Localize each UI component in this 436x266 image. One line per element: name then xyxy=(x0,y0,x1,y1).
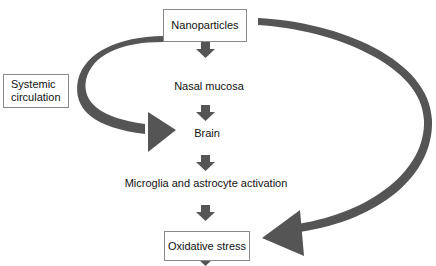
nanoparticles-box: Nanoparticles xyxy=(163,9,247,42)
curved-arrow-to-brain-icon xyxy=(77,36,176,152)
systemic-label-line1: Systemic xyxy=(11,78,56,90)
oxidative-stress-box: Oxidative stress xyxy=(164,231,250,261)
oxidative-stress-label: Oxidative stress xyxy=(168,240,246,253)
down-arrow-icon xyxy=(196,105,215,121)
curved-arrow-to-oxidative-stress-icon xyxy=(258,18,432,256)
down-arrow-icon xyxy=(196,205,215,221)
systemic-label-line2: circulation xyxy=(11,91,61,103)
diagram-canvas: Nanoparticles Systemic circulation Nasal… xyxy=(0,0,436,266)
systemic-circulation-box: Systemic circulation xyxy=(3,74,69,108)
nasal-mucosa-label: Nasal mucosa xyxy=(174,80,244,93)
down-arrow-icon xyxy=(196,155,215,171)
microglia-activation-label: Microglia and astrocyte activation xyxy=(125,177,288,190)
nanoparticles-label: Nanoparticles xyxy=(171,19,238,32)
systemic-circulation-label: Systemic circulation xyxy=(11,78,61,104)
brain-label: Brain xyxy=(194,127,220,140)
down-arrow-icon xyxy=(196,42,215,58)
